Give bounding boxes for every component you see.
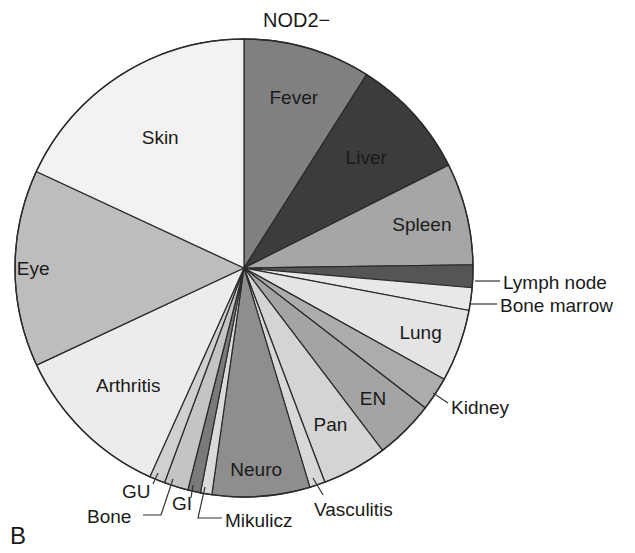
chart-title: NOD2− (263, 9, 330, 31)
slice-label-eye: Eye (17, 258, 50, 279)
slice-label-mikulicz: Mikulicz (225, 510, 293, 531)
slice-label-kidney: Kidney (451, 397, 510, 418)
slice-label-lung: Lung (399, 322, 441, 343)
slice-label-neuro: Neuro (230, 459, 282, 480)
slice-label-spleen: Spleen (392, 214, 451, 235)
slice-label-bone: Bone (87, 506, 131, 527)
slice-label-fever: Fever (270, 87, 319, 108)
slice-label-liver: Liver (346, 147, 388, 168)
slice-label-bone-marrow: Bone marrow (500, 295, 613, 316)
slice-label-pan: Pan (314, 414, 348, 435)
pie-slices (15, 39, 473, 497)
slice-label-vasculitis: Vasculitis (314, 499, 393, 520)
slice-label-en: EN (360, 388, 386, 409)
slice-label-gu: GU (122, 481, 151, 502)
slice-label-lymph-node: Lymph node (503, 272, 607, 293)
panel-label: B (10, 522, 26, 549)
slice-label-gi: GI (172, 493, 192, 514)
pie-chart: NOD2− FeverLiverSpleenLymph nodeBone mar… (0, 0, 635, 553)
slice-label-arthritis: Arthritis (96, 375, 160, 396)
leader-line-kidney (433, 393, 448, 403)
slice-label-skin: Skin (142, 127, 179, 148)
